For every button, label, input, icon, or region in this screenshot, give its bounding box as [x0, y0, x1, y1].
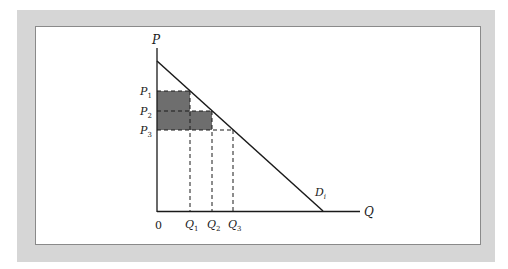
shaded-block-p2 [190, 111, 212, 130]
demand-curve [157, 61, 323, 211]
quantity-label-q1: Q1 [185, 218, 199, 233]
y-axis-label: P [151, 33, 161, 47]
x-axis-label: Q [364, 205, 374, 219]
demand-diagram: P Q 0 P1 P2 P3 Q1 Q2 Q3 Di [0, 0, 508, 269]
quantity-label-q3: Q3 [228, 218, 242, 233]
price-label-p1: P1 [139, 85, 152, 100]
quantity-label-q2: Q2 [207, 218, 221, 233]
demand-curve-label: Di [314, 186, 326, 201]
price-label-p2: P2 [139, 105, 152, 120]
origin-label: 0 [155, 219, 162, 232]
price-label-p3: P3 [139, 124, 152, 139]
